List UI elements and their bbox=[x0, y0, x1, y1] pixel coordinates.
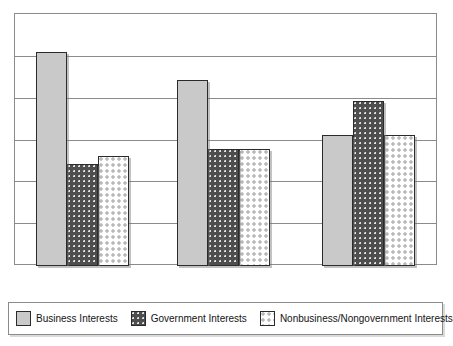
bar-group-2-series-1 bbox=[208, 149, 239, 266]
legend-swatch-icon bbox=[131, 311, 146, 326]
legend-item[interactable]: Nonbusiness/Nongovernment Interests bbox=[260, 311, 453, 326]
bar-group-1-series-1 bbox=[67, 164, 98, 266]
bar-group-3-series-1 bbox=[353, 101, 384, 266]
legend-swatch-icon bbox=[16, 311, 31, 326]
bar-group-3-series-0 bbox=[322, 135, 353, 266]
legend-label: Nonbusiness/Nongovernment Interests bbox=[280, 313, 453, 325]
legend-label: Business Interests bbox=[36, 313, 118, 325]
legend-item[interactable]: Business Interests bbox=[16, 311, 118, 326]
chart-legend: Business InterestsGovernment InterestsNo… bbox=[8, 302, 443, 335]
bar-group-3-series-2 bbox=[384, 135, 415, 266]
bar-group-2-series-0 bbox=[177, 80, 208, 266]
plot-area bbox=[14, 13, 437, 265]
legend-swatch-icon bbox=[260, 311, 275, 326]
bar-group-2-series-2 bbox=[239, 149, 270, 266]
legend-item[interactable]: Government Interests bbox=[131, 311, 247, 326]
legend-label: Government Interests bbox=[151, 313, 247, 325]
bar-group-1-series-2 bbox=[98, 156, 129, 266]
bars-layer bbox=[15, 14, 438, 266]
bar-group-1-series-0 bbox=[36, 52, 67, 266]
